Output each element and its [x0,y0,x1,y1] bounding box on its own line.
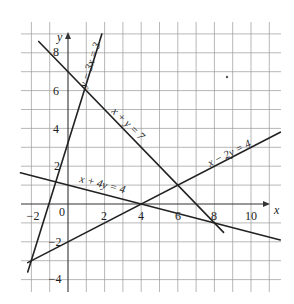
x-tick-4: 4 [138,209,144,223]
origin-label: 0 [59,205,65,219]
x-tick-10: 10 [245,209,257,223]
x-axis-label: x [273,203,280,217]
x-tick-labels: −2 0 2 4 6 8 10 [27,205,257,223]
label-y-minus-3x-eq-3: y − 3x = 3 [76,40,102,89]
y-tick-2: 2 [54,159,60,173]
y-axis-arrow-icon [65,32,71,39]
x-tick-neg2: −2 [27,209,40,223]
y-tick-8: 8 [53,45,59,59]
y-tick-4: 4 [53,122,59,136]
y-tick-labels: 8 6 4 2 −2 −4 [49,45,62,286]
stray-dot [226,76,228,78]
coordinate-graph: 8 6 4 2 −2 −4 −2 0 2 4 6 8 10 x y y − 3x… [0,0,294,304]
label-x-minus-2y-eq-4: x − 2y = 4 [205,137,253,170]
y-tick-neg4: −4 [49,272,62,286]
y-tick-6: 6 [53,84,59,98]
y-axis-label: y [56,30,63,44]
x-tick-8: 8 [211,209,217,223]
x-tick-2: 2 [101,209,107,223]
x-tick-6: 6 [175,209,181,223]
label-x-plus-4y-eq-4: x + 4y = 4 [78,172,128,195]
y-tick-neg2: −2 [49,235,62,249]
